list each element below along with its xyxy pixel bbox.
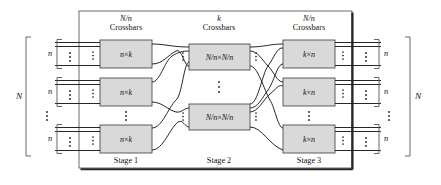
right-outer-bracket-label-N: N <box>415 92 421 102</box>
stage1-header: N/n Crossbars <box>110 15 142 32</box>
stage2-header-line2: Crossbars <box>203 24 235 33</box>
left-brackets-group <box>26 37 62 156</box>
stage3-box-1-label: k×n <box>303 50 315 58</box>
right-brackets-group <box>374 37 410 156</box>
stage3-box-3-label: k×n <box>303 135 315 143</box>
stage3-header: N/n Crossbars <box>293 15 325 32</box>
stage1-box-1-label: n×k <box>120 50 132 58</box>
output-lines-group <box>335 43 381 151</box>
stage1-box-2-label: n×k <box>120 88 132 96</box>
stage-label-2: Stage 2 <box>207 157 231 166</box>
left-inner-bracket-label-n-2: n <box>48 88 52 97</box>
left-outer-bracket-label-N: N <box>16 92 22 102</box>
right-inner-bracket-label-n-1: n <box>384 50 388 59</box>
left-inner-bracket-label-n-3: n <box>48 135 52 144</box>
stage1-box-3-label: n×k <box>120 135 132 143</box>
stage2-box-1-label: N/n×N/n <box>206 53 234 61</box>
stage3-header-line2: Crossbars <box>293 24 325 33</box>
stage-label-3: Stage 3 <box>297 157 321 166</box>
left-inner-bracket-label-n-1: n <box>48 50 52 59</box>
stage-label-1: Stage 1 <box>114 157 138 166</box>
stage2-header: k Crossbars <box>203 15 235 32</box>
stage2-box-2-label: N/n×N/n <box>206 113 234 121</box>
right-inner-bracket-label-n-2: n <box>384 88 388 97</box>
stage3-box-2-label: k×n <box>303 88 315 96</box>
right-inner-bracket-label-n-3: n <box>384 135 388 144</box>
interconnect-stage2-stage3 <box>250 44 283 150</box>
stage1-header-line2: Crossbars <box>110 24 142 33</box>
figure-canvas: N/n Crossbars k Crossbars N/n Crossbars … <box>0 0 441 185</box>
